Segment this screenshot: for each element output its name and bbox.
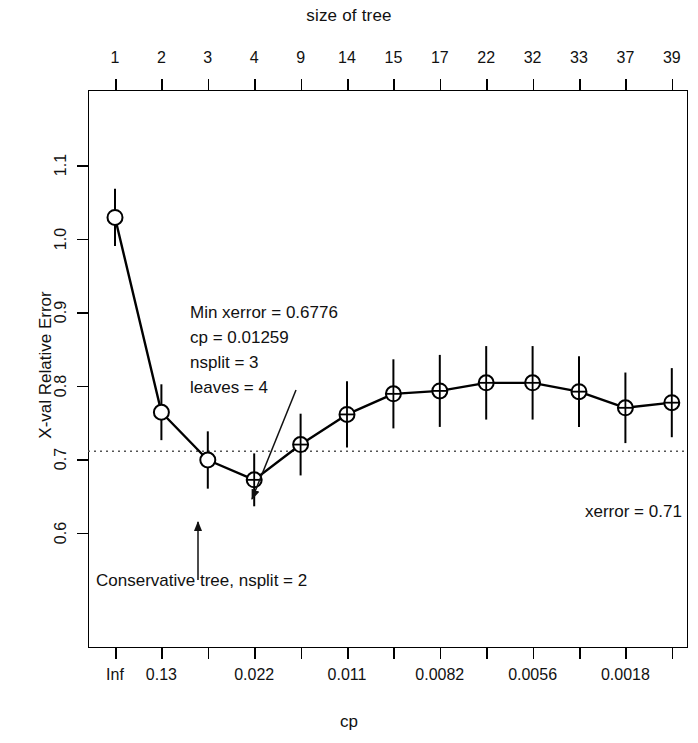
- bottom-tick-label-0.0018: 0.0018: [580, 666, 670, 684]
- bottom-tick-0: [115, 648, 117, 659]
- bottom-tick-3: [254, 648, 256, 659]
- y-tick-label-0.9: 0.9: [52, 282, 70, 342]
- bottom-tick-5: [347, 648, 349, 659]
- data-point-1: [108, 210, 123, 225]
- top-tick-33: [579, 79, 581, 90]
- xerror-reference-label: xerror = 0.71: [585, 499, 682, 524]
- top-axis-title: size of tree: [0, 6, 698, 26]
- min-xerror-arrow: [252, 390, 296, 499]
- top-tick-17: [440, 79, 442, 90]
- bottom-tick-label-0.13: 0.13: [116, 666, 206, 684]
- top-tick-39: [672, 79, 674, 90]
- y-tick-label-1.1: 1.1: [52, 135, 70, 195]
- conservative-tree-annotation: Conservative tree, nsplit = 2: [96, 568, 307, 593]
- y-tick-0.8: [77, 386, 88, 388]
- top-tick-37: [625, 79, 627, 90]
- y-tick-label-0.6: 0.6: [52, 503, 70, 563]
- bottom-tick-8: [486, 648, 488, 659]
- bottom-tick-9: [533, 648, 535, 659]
- top-tick-3: [208, 79, 210, 90]
- y-tick-0.7: [77, 459, 88, 461]
- bottom-tick-12: [672, 648, 674, 659]
- bottom-tick-4: [301, 648, 303, 659]
- bottom-tick-10: [579, 648, 581, 659]
- top-tick-22: [486, 79, 488, 90]
- top-tick-label-39: 39: [642, 49, 698, 67]
- x-axis-title: cp: [0, 712, 698, 732]
- data-point-2: [154, 405, 169, 420]
- bottom-tick-7: [440, 648, 442, 659]
- bottom-tick-label-0.0082: 0.0082: [395, 666, 485, 684]
- top-tick-1: [115, 79, 117, 90]
- y-tick-label-0.7: 0.7: [52, 429, 70, 489]
- y-tick-0.9: [77, 312, 88, 314]
- top-tick-32: [533, 79, 535, 90]
- bottom-tick-label-0.022: 0.022: [209, 666, 299, 684]
- min-xerror-line3: nsplit = 3: [190, 353, 259, 372]
- min-xerror-line1: Min xerror = 0.6776: [190, 303, 338, 322]
- rpart-cp-plot: size of tree cp X-val Relative Error 123…: [0, 0, 698, 743]
- top-tick-2: [161, 79, 163, 90]
- bottom-tick-11: [625, 648, 627, 659]
- plot-area: [88, 90, 688, 648]
- top-tick-15: [393, 79, 395, 90]
- y-tick-label-1.0: 1.0: [52, 209, 70, 269]
- min-xerror-line2: cp = 0.01259: [190, 328, 289, 347]
- top-tick-4: [254, 79, 256, 90]
- plot-svg: [88, 90, 688, 648]
- y-tick-label-0.8: 0.8: [52, 356, 70, 416]
- top-tick-9: [301, 79, 303, 90]
- bottom-tick-1: [161, 648, 163, 659]
- min-xerror-annotation: Min xerror = 0.6776 cp = 0.01259 nsplit …: [190, 300, 338, 400]
- y-tick-1.1: [77, 165, 88, 167]
- bottom-tick-label-0.011: 0.011: [302, 666, 392, 684]
- y-tick-0.6: [77, 533, 88, 535]
- bottom-tick-label-0.0056: 0.0056: [488, 666, 578, 684]
- bottom-tick-2: [208, 648, 210, 659]
- bottom-tick-6: [393, 648, 395, 659]
- y-tick-1.0: [77, 239, 88, 241]
- top-tick-14: [347, 79, 349, 90]
- min-xerror-line4: leaves = 4: [190, 378, 268, 397]
- data-point-3: [200, 453, 215, 468]
